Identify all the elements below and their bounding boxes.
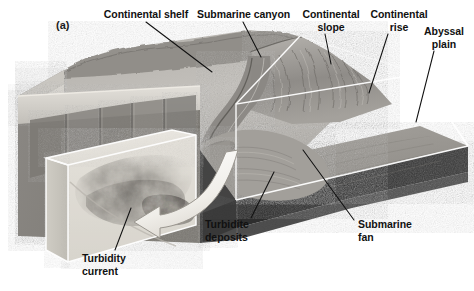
figure-canvas (0, 0, 474, 291)
label-continental-shelf: Continental shelf (100, 8, 192, 21)
label-submarine-fan: Submarinefan (358, 218, 412, 243)
panel-letter: (a) (56, 19, 69, 31)
label-abyssal-plain: Abyssalplain (420, 25, 468, 50)
label-turbidity-current: Turbiditycurrent (82, 252, 138, 277)
label-continental-slope: Continentalslope (300, 8, 362, 33)
label-turbidite-deposits: Turbiditedeposits (205, 218, 253, 243)
label-submarine-canyon: Submarine canyon (197, 8, 289, 21)
